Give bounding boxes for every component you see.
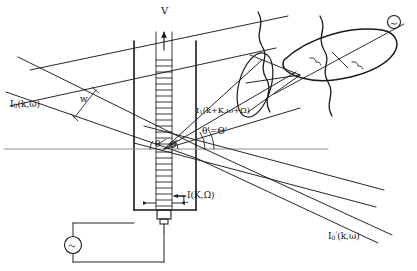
acoustic-wave-column <box>156 32 172 209</box>
detector-axis <box>274 24 404 94</box>
photodetector-symbol <box>388 16 401 29</box>
figure-canvas: V I0(k,ω) w I1(k+K,ω+Ω) θ'=Θ' θ Θ I(K,Ω)… <box>0 0 417 271</box>
acoustic-wave-label: I(K,Ω) <box>187 191 215 200</box>
focused-cone <box>246 55 300 112</box>
velocity-label: V <box>161 6 168 16</box>
piezoelectric-transducer <box>157 210 171 232</box>
interaction-length-marker <box>147 196 185 203</box>
scattered-beam-label: I1(k+K,ω+Ω) <box>196 106 250 116</box>
beam-width-label: w <box>80 95 88 104</box>
transmitted-beam-arguments: (k,ω) <box>337 231 360 241</box>
inside-angle-cap-theta-label: Θ <box>169 141 176 150</box>
interaction-length-label: L <box>182 196 188 205</box>
incident-beam-label: I0(k,ω) <box>10 100 40 109</box>
scattered-beam-arguments: (k+K,ω+Ω) <box>203 105 250 115</box>
lobe-angle-marks <box>310 58 363 69</box>
incident-beam-arguments: (k,ω) <box>17 99 40 109</box>
inside-angle-theta-label: θ <box>155 140 160 149</box>
transmitted-beam-label: I0'(k,ω) <box>328 231 360 241</box>
rf-generator-circuit <box>65 223 165 262</box>
outside-angle-label: θ'=Θ' <box>202 127 227 136</box>
